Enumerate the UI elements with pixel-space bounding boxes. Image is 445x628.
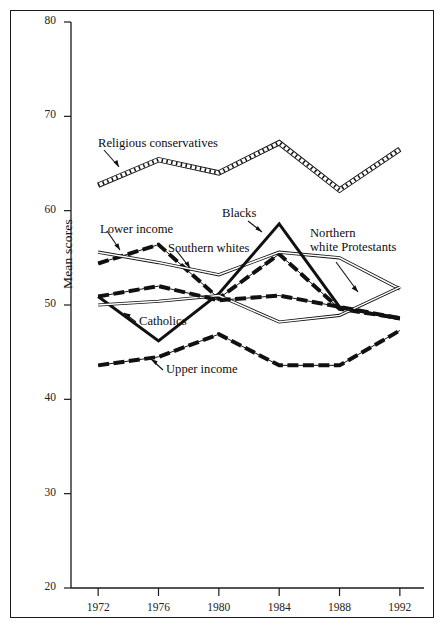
y-tick-label: 80	[30, 14, 56, 26]
x-tick-label: 1984	[256, 601, 302, 613]
annotation-lower-income: Lower income	[100, 222, 173, 236]
annotation-northern-white-protestants-line1: Northern	[310, 226, 396, 240]
x-axis-ticks	[98, 588, 400, 596]
y-axis-ticks	[64, 22, 71, 588]
annotation-northern-white-protestants: Northern white Protestants	[310, 226, 396, 255]
y-tick-label: 40	[30, 391, 56, 403]
x-tick-label: 1992	[377, 601, 423, 613]
y-tick-label: 30	[30, 486, 56, 498]
annotation-southern-whites: Southern whites	[168, 241, 250, 255]
x-tick-label: 1988	[317, 601, 363, 613]
annotation-catholics: Catholics	[139, 314, 187, 328]
chart-canvas	[0, 0, 445, 628]
x-tick-label: 1976	[135, 601, 181, 613]
x-tick-label: 1980	[196, 601, 242, 613]
axis-lines	[71, 22, 424, 588]
y-tick-label: 70	[30, 108, 56, 120]
y-tick-label: 50	[30, 297, 56, 309]
annotation-blacks: Blacks	[222, 206, 256, 220]
annotation-upper-income: Upper income	[166, 362, 238, 376]
y-tick-label: 60	[30, 203, 56, 215]
figure-root: Mean scores	[0, 0, 445, 628]
series-upper-income	[98, 330, 400, 365]
x-tick-label: 1972	[75, 601, 121, 613]
annotation-religious-conservatives: Religious conservatives	[98, 136, 218, 150]
y-tick-label: 20	[30, 580, 56, 592]
annotation-northern-white-protestants-line2: white Protestants	[310, 240, 396, 254]
